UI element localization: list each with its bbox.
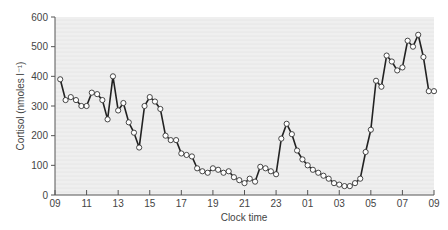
data-point-marker [226,169,231,174]
x-tick-label: 07 [397,198,409,209]
data-point-marker [326,176,331,181]
data-point-marker [342,184,347,189]
x-axis-title: Clock time [221,212,268,223]
data-point-marker [379,84,384,89]
data-point-marker [174,138,179,143]
data-point-marker [284,121,289,126]
data-point-marker [426,89,431,94]
y-tick-label: 500 [31,41,48,52]
x-tick-label: 19 [207,198,219,209]
y-tick-label: 300 [31,101,48,112]
x-tick-label: 09 [428,198,440,209]
data-point-marker [58,77,63,82]
data-point-marker [258,164,263,169]
data-point-marker [105,117,110,122]
data-point-marker [294,148,299,153]
cortisol-line-chart: 0100200300400500600 09111315171921230103… [0,0,448,230]
data-point-marker [352,181,357,186]
x-tick-label: 17 [176,198,188,209]
data-point-marker [405,38,410,43]
x-tick-label: 09 [49,198,61,209]
data-point-marker [131,130,136,135]
x-tick-label: 21 [239,198,251,209]
data-point-marker [79,103,84,108]
data-point-marker [368,127,373,132]
y-axis-title: Cortisol (nmoles l⁻¹) [15,62,26,151]
y-tick-label: 0 [42,190,48,201]
data-point-marker [73,97,78,102]
data-point-marker [121,100,126,105]
data-point-marker [163,133,168,138]
data-point-marker [305,163,310,168]
data-point-marker [100,97,105,102]
data-point-marker [337,182,342,187]
data-point-marker [289,132,294,137]
data-point-marker [268,169,273,174]
y-tick-label: 200 [31,130,48,141]
data-point-marker [373,78,378,83]
data-point-marker [410,44,415,49]
data-point-marker [158,106,163,111]
data-point-marker [384,53,389,58]
data-point-marker [331,181,336,186]
data-point-marker [273,172,278,177]
data-point-marker [263,166,268,171]
data-point-marker [221,170,226,175]
data-point-marker [195,166,200,171]
data-point-marker [216,167,221,172]
data-point-marker [95,92,100,97]
data-point-marker [63,97,68,102]
data-point-marker [389,59,394,64]
data-point-marker [310,167,315,172]
data-point-marker [395,68,400,73]
data-point-marker [147,95,152,100]
x-tick-label: 23 [271,198,283,209]
data-point-marker [252,179,257,184]
data-point-marker [179,151,184,156]
data-point-marker [431,89,436,94]
data-point-marker [300,157,305,162]
data-point-marker [231,175,236,180]
x-tick-label: 15 [144,198,156,209]
data-point-marker [168,138,173,143]
data-point-marker [137,145,142,150]
y-tick-label: 600 [31,12,48,23]
data-point-marker [210,166,215,171]
data-point-marker [421,54,426,59]
data-point-marker [279,136,284,141]
x-tick-label: 13 [113,198,125,209]
data-point-marker [84,103,89,108]
data-point-marker [189,154,194,159]
data-point-marker [358,176,363,181]
x-tick-label: 03 [334,198,346,209]
data-point-marker [416,32,421,37]
data-point-marker [347,184,352,189]
data-point-marker [242,181,247,186]
data-point-marker [316,170,321,175]
data-point-marker [68,95,73,100]
x-tick-label: 05 [365,198,377,209]
x-tick-label: 01 [302,198,314,209]
data-point-marker [142,103,147,108]
y-tick-label: 400 [31,71,48,82]
data-point-marker [237,178,242,183]
data-point-marker [363,149,368,154]
data-point-marker [205,170,210,175]
data-point-marker [116,108,121,113]
data-point-marker [200,169,205,174]
data-point-marker [126,120,131,125]
data-point-marker [152,99,157,104]
data-point-marker [247,176,252,181]
data-point-marker [110,74,115,79]
y-tick-label: 100 [31,160,48,171]
data-point-marker [89,90,94,95]
data-point-marker [321,173,326,178]
y-axis: 0100200300400500600 [31,12,55,201]
x-tick-label: 11 [81,198,92,209]
data-point-marker [184,152,189,157]
data-point-marker [400,65,405,70]
